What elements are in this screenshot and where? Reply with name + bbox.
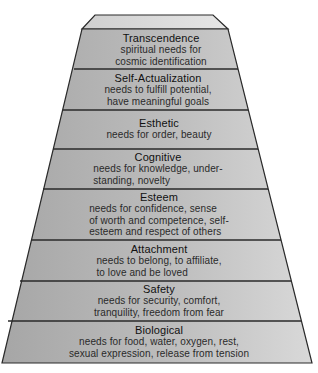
layer-self-actualization: Self-Actualization needs to fulfill pote… — [0, 72, 317, 107]
layer-description: spiritual needs for cosmic identificatio… — [2, 44, 318, 67]
layer-description: needs to belong, to affiliate, to love a… — [96, 255, 221, 278]
pyramid-cap — [82, 15, 228, 29]
layer-description: needs for security, comfort, tranquility… — [0, 295, 318, 318]
layer-title: Safety — [0, 283, 318, 295]
layer-title: Esteem — [0, 191, 318, 203]
layer-safety: Safety needs for security, comfort, tran… — [0, 283, 318, 318]
layer-transcendence: Transcendence spiritual needs for cosmic… — [2, 32, 318, 67]
layer-description: needs to fulfill potential, have meaning… — [0, 84, 317, 107]
layer-esteem: Esteem needs for confidence, sense of wo… — [0, 191, 318, 239]
layer-title: Biological — [0, 324, 318, 336]
layer-cognitive: Cognitive needs for knowledge, under- st… — [0, 151, 317, 188]
layer-esthetic: Esthetic needs for order, beauty — [0, 117, 318, 141]
layer-title: Self-Actualization — [0, 72, 317, 84]
layer-description: needs for order, beauty — [0, 129, 318, 141]
layer-attachment: Attachment needs to belong, to affiliate… — [0, 243, 318, 280]
layer-title: Esthetic — [0, 117, 318, 129]
layer-title: Attachment — [0, 243, 318, 255]
layer-description: needs for food, water, oxygen, rest, sex… — [0, 336, 318, 359]
layer-description: needs for confidence, sense of worth and… — [89, 203, 229, 238]
layer-title: Transcendence — [2, 32, 318, 44]
layer-title: Cognitive — [0, 151, 317, 163]
layer-biological: Biological needs for food, water, oxygen… — [0, 324, 318, 359]
layer-description: needs for knowledge, under- standing, no… — [93, 163, 222, 186]
